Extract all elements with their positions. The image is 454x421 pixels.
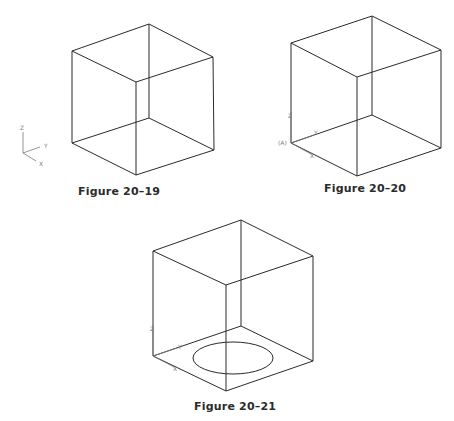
svg-text:Z: Z <box>288 112 292 119</box>
figure-canvas: Z Y X Z Y X (A) Z Y X <box>0 0 454 421</box>
svg-text:(A): (A) <box>278 139 287 146</box>
caption-fig-20-19: Figure 20–19 <box>78 185 160 198</box>
svg-text:X: X <box>310 152 314 159</box>
svg-text:X: X <box>173 365 177 372</box>
caption-fig-20-20: Figure 20–20 <box>324 182 406 195</box>
ucs-icon-fig-20-19: Z Y X <box>20 124 48 167</box>
svg-text:Z: Z <box>20 124 24 131</box>
svg-text:Z: Z <box>150 325 154 332</box>
caption-fig-20-21: Figure 20–21 <box>194 400 276 413</box>
ucs-icon-fig-20-21: Z Y X <box>150 325 182 372</box>
svg-text:Y: Y <box>313 129 318 136</box>
cube-fig-20-19 <box>72 24 214 175</box>
base-circle <box>193 342 273 374</box>
svg-text:Y: Y <box>43 142 48 149</box>
svg-text:Y: Y <box>177 343 182 350</box>
svg-text:X: X <box>39 160 43 167</box>
ucs-icon-fig-20-20: Z Y X (A) <box>278 112 318 159</box>
